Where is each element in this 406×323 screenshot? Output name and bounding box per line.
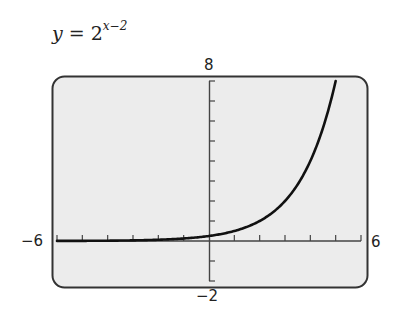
graph-screen bbox=[0, 0, 406, 323]
y-min-label: −2 bbox=[196, 287, 218, 305]
y-max-label: 8 bbox=[204, 56, 214, 74]
x-min-label: −6 bbox=[21, 232, 43, 250]
x-max-label: 6 bbox=[371, 233, 381, 251]
